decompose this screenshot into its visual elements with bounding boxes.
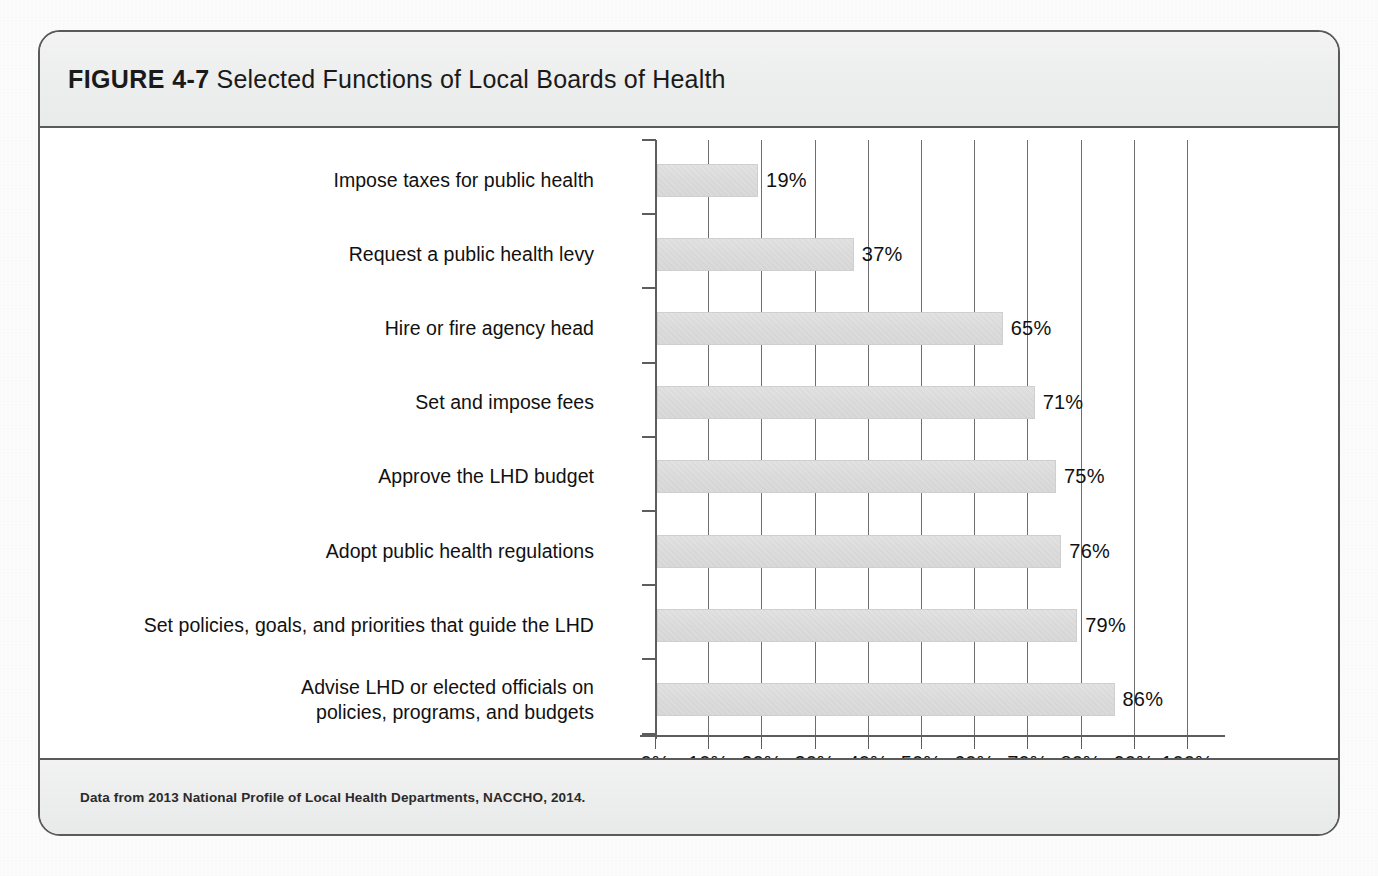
y-tick-5 (642, 510, 656, 512)
gridline-90 (1134, 140, 1135, 735)
chart-plot-area: 0%10%20%30%40%50%60%70%80%90%100%19%Impo… (40, 128, 1338, 758)
bar-value-label: 71% (1043, 386, 1084, 419)
y-axis-line (655, 140, 657, 739)
figure-container: FIGURE 4-7 Selected Functions of Local B… (38, 30, 1340, 836)
bar-7 (657, 683, 1115, 716)
x-tick-20 (761, 736, 762, 749)
bar-value-label: 86% (1123, 683, 1164, 716)
category-label: Impose taxes for public health (333, 168, 594, 193)
gridline-100 (1187, 140, 1188, 735)
bar-3 (657, 386, 1035, 419)
gridline-10 (708, 140, 709, 735)
y-tick-4 (642, 436, 656, 438)
figure-title: FIGURE 4-7 Selected Functions of Local B… (40, 65, 726, 94)
y-tick-7 (642, 658, 656, 660)
x-tick-50 (921, 736, 922, 749)
bar-chart: 0%10%20%30%40%50%60%70%80%90%100%19%Impo… (40, 128, 1338, 758)
x-tick-90 (1134, 736, 1135, 749)
category-label: Adopt public health regulations (326, 539, 594, 564)
category-label: Set policies, goals, and priorities that… (144, 613, 594, 638)
x-tick-0 (655, 736, 656, 749)
figure-caption: Selected Functions of Local Boards of He… (217, 65, 726, 93)
category-label: Set and impose fees (415, 390, 594, 415)
bar-2 (657, 312, 1003, 345)
x-tick-60 (974, 736, 975, 749)
x-tick-30 (815, 736, 816, 749)
y-tick-6 (642, 584, 656, 586)
category-label: Request a public health levy (349, 242, 594, 267)
figure-number: FIGURE 4-7 (68, 65, 210, 93)
y-tick-8 (642, 733, 656, 735)
x-tick-40 (868, 736, 869, 749)
y-tick-0 (642, 139, 656, 141)
x-tick-80 (1081, 736, 1082, 749)
bar-4 (657, 460, 1056, 493)
gridline-50 (921, 140, 922, 735)
gridline-70 (1027, 140, 1028, 735)
category-label: Hire or fire agency head (385, 316, 594, 341)
x-tick-10 (708, 736, 709, 749)
bar-value-label: 76% (1069, 535, 1110, 568)
gridline-80 (1081, 140, 1082, 735)
bar-value-label: 37% (862, 238, 903, 271)
gridline-20 (761, 140, 762, 735)
gridline-30 (815, 140, 816, 735)
y-tick-2 (642, 287, 656, 289)
bar-0 (657, 164, 758, 197)
bar-value-label: 65% (1011, 312, 1052, 345)
y-tick-3 (642, 362, 656, 364)
x-tick-100 (1187, 736, 1188, 749)
bar-value-label: 79% (1085, 609, 1126, 642)
x-axis-line (640, 735, 1225, 737)
bar-5 (657, 535, 1061, 568)
gridline-60 (974, 140, 975, 735)
bar-value-label: 75% (1064, 460, 1105, 493)
bar-1 (657, 238, 854, 271)
figure-footer-band: Data from 2013 National Profile of Local… (40, 758, 1338, 834)
figure-header-band: FIGURE 4-7 Selected Functions of Local B… (40, 32, 1338, 128)
x-tick-70 (1027, 736, 1028, 749)
y-tick-1 (642, 213, 656, 215)
bar-value-label: 19% (766, 164, 807, 197)
figure-source-note: Data from 2013 National Profile of Local… (40, 790, 585, 805)
bar-6 (657, 609, 1077, 642)
gridline-40 (868, 140, 869, 735)
category-label: Approve the LHD budget (378, 464, 594, 489)
category-label: Advise LHD or elected officials on polic… (301, 675, 594, 725)
